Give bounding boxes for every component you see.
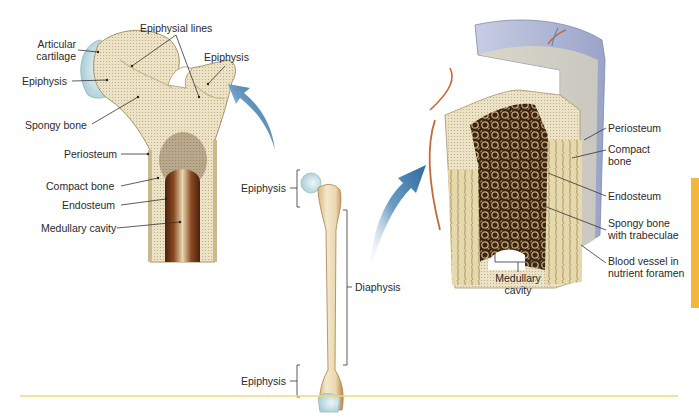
diaphysis-wall-illustration bbox=[430, 20, 605, 288]
label-articular-line1: Articular bbox=[22, 38, 76, 50]
label-epiphysis-left: Epiphysis bbox=[22, 75, 67, 87]
label-spongy-bone: Spongy bone bbox=[25, 119, 87, 131]
side-tab bbox=[691, 178, 699, 308]
label-blood-line2: nutrient foramen bbox=[608, 267, 684, 279]
label-epiphysis-top: Epiphysis bbox=[241, 182, 286, 194]
label-medullary-cavity-right: Medullary cavity bbox=[490, 272, 546, 296]
label-spongy-line2: with trabeculae bbox=[608, 229, 679, 241]
label-epiphysis-bottom: Epiphysis bbox=[241, 375, 286, 387]
label-blood-vessel: Blood vessel in nutrient foramen bbox=[608, 255, 684, 279]
whole-femur-illustration bbox=[301, 173, 343, 412]
label-diaphysis: Diaphysis bbox=[355, 281, 401, 293]
label-epiphysial-lines: Epiphysial lines bbox=[140, 22, 212, 34]
label-compact-bone: Compact bone bbox=[46, 180, 114, 192]
label-medullary-cavity: Medullary cavity bbox=[41, 222, 116, 234]
label-compact-line2: bone bbox=[608, 155, 650, 167]
label-medullary-line1: Medullary bbox=[490, 272, 546, 284]
label-spongy-line1: Spongy bone bbox=[608, 217, 679, 229]
label-periosteum-right: Periosteum bbox=[608, 122, 661, 134]
label-medullary-line2: cavity bbox=[490, 284, 546, 296]
arrow-to-proximal-section bbox=[228, 84, 275, 150]
label-compact-line1: Compact bbox=[608, 143, 650, 155]
label-spongy-trabeculae: Spongy bone with trabeculae bbox=[608, 217, 679, 241]
label-endosteum-right: Endosteum bbox=[608, 190, 661, 202]
label-endosteum: Endosteum bbox=[62, 199, 115, 211]
label-articular-line2: cartilage bbox=[22, 50, 76, 62]
label-compact-bone-right: Compact bone bbox=[608, 143, 650, 167]
arrow-to-diaphysis-section bbox=[370, 165, 426, 270]
label-epiphysis-right: Epiphysis bbox=[204, 51, 249, 63]
label-articular-cartilage: Articular cartilage bbox=[22, 38, 76, 62]
bone-anatomy-figure: Articular cartilage Epiphysis Epiphysial… bbox=[0, 0, 699, 419]
label-periosteum: Periosteum bbox=[64, 148, 117, 160]
label-blood-line1: Blood vessel in bbox=[608, 255, 684, 267]
